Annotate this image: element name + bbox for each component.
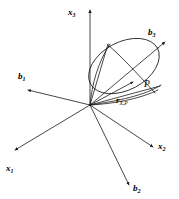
axis-label-b3-base: b <box>148 27 153 37</box>
axis-label-b1-sub: 1 <box>23 76 26 82</box>
point-label-p-base: P <box>144 79 150 89</box>
vector-cone-diagram: x3 x1 x2 b1 b2 b3 P rX,P <box>0 0 179 199</box>
axis-label-b2: b2 <box>133 178 141 194</box>
axis-label-x2-sub: 2 <box>163 146 166 152</box>
axis-arrow-x1 <box>15 105 90 150</box>
axis-label-b3-sub: 3 <box>153 32 156 38</box>
axis-label-x3-base: x <box>68 7 73 17</box>
axis-arrow-x2 <box>90 105 153 147</box>
axis-arrow-b2 <box>90 105 129 185</box>
axis-label-x1: x1 <box>6 158 14 174</box>
axis-label-x3: x3 <box>68 2 76 18</box>
point-label-p: P <box>144 74 150 90</box>
axis-arrow-b1 <box>28 90 90 105</box>
axis-label-x3-sub: 3 <box>73 12 76 18</box>
position-vector-label: rX,P <box>116 90 128 106</box>
axis-label-b1: b1 <box>18 66 26 82</box>
axis-label-b3: b3 <box>148 22 156 38</box>
position-vector-label-sub: X,P <box>120 100 128 106</box>
position-vector-label-base: r <box>116 95 120 105</box>
axis-label-b1-base: b <box>18 71 23 81</box>
axis-label-x2: x2 <box>158 136 166 152</box>
axis-label-x1-sub: 1 <box>11 168 14 174</box>
axis-label-x2-base: x <box>158 141 163 151</box>
axis-label-b2-sub: 2 <box>138 188 141 194</box>
axis-label-b2-base: b <box>133 183 138 193</box>
axis-label-x1-base: x <box>6 163 11 173</box>
